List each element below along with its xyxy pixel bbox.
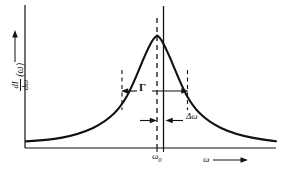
delta-omega-label: Δω [186, 112, 198, 121]
delta-omega-double-arrow-icon [140, 118, 183, 123]
x-axis-right-arrow-icon [213, 157, 248, 163]
lorentzian-curve [26, 36, 276, 142]
spectral-line-shape-figure: dI dω (ω) Γ Δω ω0 ω [0, 0, 282, 174]
omega-zero-subscript: 0 [158, 156, 161, 163]
y-axis-label: dI dω (ω) [11, 47, 29, 107]
y-axis-denominator: dω [21, 79, 30, 91]
y-axis-fraction: dI dω [11, 79, 29, 91]
y-axis-argument: (ω) [15, 63, 25, 77]
gamma-label: Γ [139, 82, 146, 93]
x-axis-label: ω [203, 155, 209, 164]
omega-zero-tick-label: ω0 [152, 152, 162, 163]
